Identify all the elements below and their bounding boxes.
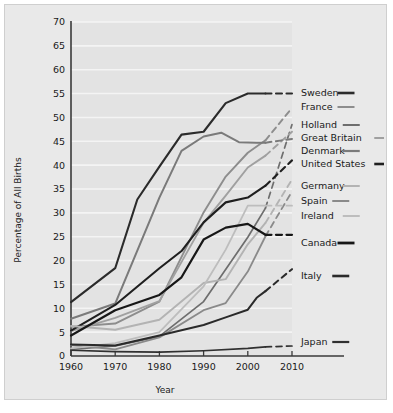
chart-figure: 0510152025303540455055606570 19601970198… — [4, 4, 387, 400]
legend-label-denmark[interactable]: Denmark — [301, 145, 345, 156]
legend-label-france[interactable]: France — [301, 101, 333, 112]
chart-legend: SwedenFranceHollandGreat BritainDenmarkU… — [300, 87, 384, 347]
y-tick-label: 45 — [53, 136, 65, 147]
y-tick-label: 10 — [53, 303, 65, 314]
x-tick-label: 2000 — [236, 361, 260, 372]
y-tick-label: 20 — [53, 255, 65, 266]
x-tick-label: 1980 — [147, 361, 171, 372]
legend-label-germany[interactable]: Germany — [301, 180, 345, 191]
y-tick-label: 25 — [53, 231, 65, 242]
y-tick-label: 50 — [53, 112, 65, 123]
x-tick-label: 1970 — [103, 361, 127, 372]
x-axis-tick-labels: 196019701980199020002010 — [59, 361, 304, 372]
legend-label-holland[interactable]: Holland — [301, 119, 337, 130]
line-chart: 0510152025303540455055606570 19601970198… — [5, 5, 386, 399]
legend-label-spain[interactable]: Spain — [301, 195, 328, 206]
series-projection-japan — [265, 346, 292, 347]
legend-label-sweden[interactable]: Sweden — [301, 87, 339, 98]
x-tick-label: 2010 — [280, 361, 304, 372]
y-tick-label: 30 — [53, 207, 65, 218]
legend-label-japan[interactable]: Japan — [300, 336, 328, 347]
legend-label-ireland[interactable]: Ireland — [301, 210, 334, 221]
legend-label-canada[interactable]: Canada — [301, 237, 337, 248]
y-tick-label: 0 — [59, 350, 65, 361]
legend-label-italy[interactable]: Italy — [301, 270, 322, 281]
y-tick-label: 65 — [53, 40, 65, 51]
legend-label-great-britain[interactable]: Great Britain — [301, 132, 362, 143]
x-tick-label: 1960 — [59, 361, 83, 372]
y-tick-label: 70 — [53, 16, 65, 27]
y-tick-label: 60 — [53, 64, 65, 75]
y-tick-label: 35 — [53, 183, 65, 194]
y-tick-label: 15 — [53, 279, 65, 290]
y-axis-title: Percentage of All Births — [13, 157, 23, 263]
y-tick-label: 55 — [53, 88, 65, 99]
y-tick-label: 40 — [53, 160, 65, 171]
x-axis-title: Year — [154, 385, 174, 395]
y-tick-label: 5 — [59, 327, 65, 338]
y-axis-tick-labels: 0510152025303540455055606570 — [53, 16, 65, 361]
legend-label-united-states[interactable]: United States — [301, 158, 365, 169]
x-tick-label: 1990 — [192, 361, 216, 372]
